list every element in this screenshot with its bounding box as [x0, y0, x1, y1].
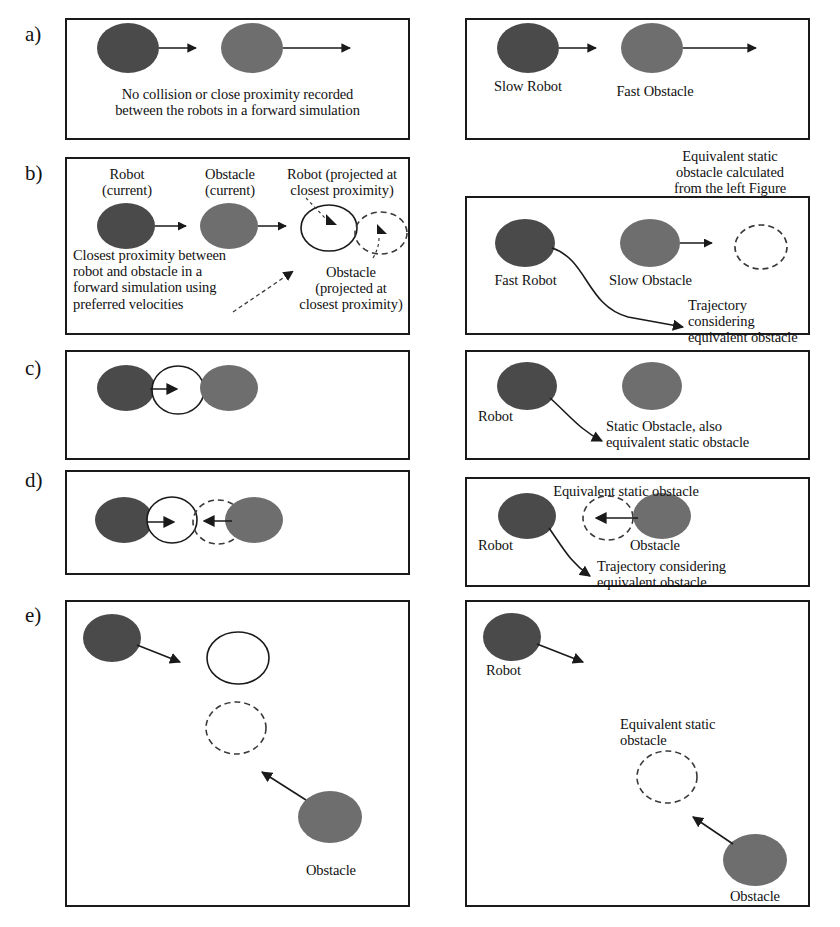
panel-b-right-equivalent-note: Equivalent static obstacle calculated fr… [650, 148, 810, 197]
panel-e-left [65, 600, 410, 907]
row-label-a: a) [25, 24, 41, 45]
figure-root: a) b) c) d) e) [0, 0, 840, 927]
panel-d-right-equivalent-label: Equivalent static obstacle [520, 483, 732, 499]
row-label-c: c) [25, 358, 41, 379]
panel-d-left [65, 470, 410, 575]
panel-c-right-obstacle-label: Static Obstacle, also equivalent static … [606, 418, 786, 450]
panel-a-right-obstacle-label: Fast Obstacle [600, 83, 710, 99]
panel-b-right-trajectory-label: Trajectory considering equivalent obstac… [688, 297, 812, 346]
panel-b-left-closest-proximity-note: Closest proximity between robot and obst… [73, 247, 253, 312]
panel-c-right-robot-label: Robot [478, 408, 558, 424]
panel-e-right [465, 600, 810, 907]
panel-b-left-robot-current-label: Robot (current) [82, 166, 172, 198]
panel-b-left-obstacle-projected-label: Obstacle (projected at closest proximity… [295, 264, 407, 313]
panel-e-right-robot-label: Robot [486, 662, 566, 678]
panel-a-right-robot-label: Slow Robot [478, 78, 578, 94]
panel-a-left-caption: No collision or close proximity recorded… [75, 86, 400, 118]
row-label-e: e) [25, 605, 41, 626]
panel-e-right-equivalent-label: Equivalent static obstacle [620, 716, 750, 748]
panel-b-right-robot-label: Fast Robot [478, 272, 573, 288]
panel-e-right-obstacle-label: Obstacle [730, 888, 820, 904]
panel-d-right-obstacle-label: Obstacle [630, 537, 720, 553]
panel-b-right-obstacle-label: Slow Obstacle [598, 272, 703, 288]
panel-c-left [65, 350, 410, 460]
panel-a-left [65, 18, 410, 140]
panel-b-left-robot-projected-label: Robot (projected at closest proximity) [277, 166, 407, 198]
panel-d-right-robot-label: Robot [478, 537, 548, 553]
panel-b-left-obstacle-current-label: Obstacle (current) [185, 166, 275, 198]
panel-e-left-obstacle-label: Obstacle [306, 862, 396, 878]
row-label-d: d) [25, 470, 43, 491]
row-label-b: b) [25, 163, 43, 184]
panel-d-right-trajectory-label: Trajectory considering equivalent obstac… [597, 558, 757, 590]
